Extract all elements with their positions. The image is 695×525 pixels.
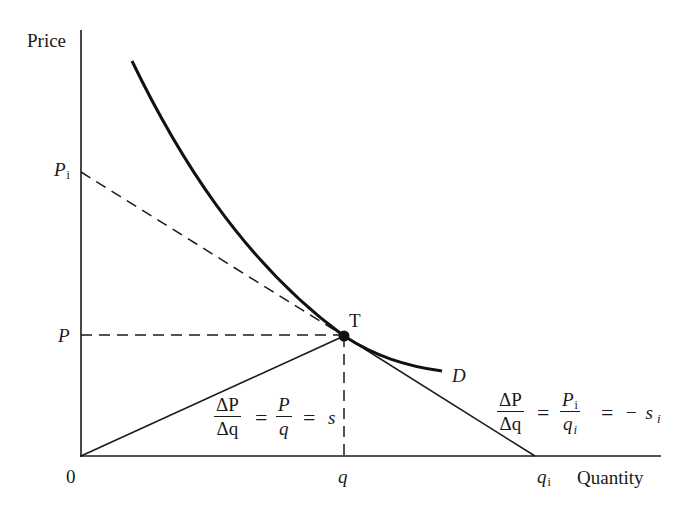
left-formula-eq1: = xyxy=(255,407,267,429)
tangent-dashed-line xyxy=(81,172,344,336)
left-frac1-numerator: ΔP xyxy=(214,395,241,417)
right-frac2-den-sub: i xyxy=(573,422,577,437)
q-i-base: q xyxy=(537,466,547,487)
origin-label: 0 xyxy=(66,467,76,486)
p-i-sub: i xyxy=(67,168,70,182)
intercept-quantity-label: qi xyxy=(537,467,551,486)
right-frac2-den-base: q xyxy=(563,413,573,434)
right-rhs-sub: i xyxy=(657,411,661,426)
ray-from-origin xyxy=(81,336,344,456)
right-frac2-num-sub: i xyxy=(575,398,578,412)
demand-curve-label: D xyxy=(452,366,466,385)
q-i-sub: i xyxy=(548,475,551,489)
right-frac1-numerator: ΔP xyxy=(497,390,524,412)
right-formula-eq2: = xyxy=(601,402,613,424)
left-frac2-numerator: P xyxy=(276,395,292,417)
demand-curve xyxy=(132,61,442,371)
left-formula-frac2: P q xyxy=(276,395,292,438)
right-frac1-denominator: Δq xyxy=(500,412,522,433)
right-formula-eq1: = xyxy=(537,402,549,424)
right-frac2-denominator: qi xyxy=(563,412,577,433)
left-frac2-denominator: q xyxy=(279,417,289,438)
y-axis-label: Price xyxy=(27,31,66,50)
p-i-base: P xyxy=(54,159,66,180)
quantity-label: q xyxy=(338,467,348,486)
demand-diagram-canvas xyxy=(0,0,695,525)
right-rhs-sign: − xyxy=(626,402,637,423)
left-frac1-denominator: Δq xyxy=(217,417,239,438)
right-formula-rhs: − si xyxy=(626,403,661,422)
intercept-price-label: Pi xyxy=(54,160,70,179)
point-t-label: T xyxy=(349,311,361,330)
tangency-point-marker xyxy=(339,331,350,342)
right-formula-frac2: Pi qi xyxy=(560,390,580,433)
right-frac2-num-base: P xyxy=(562,389,574,410)
x-axis-label: Quantity xyxy=(577,468,644,487)
right-frac2-numerator: Pi xyxy=(560,390,580,412)
right-rhs-base: s xyxy=(645,402,652,423)
left-formula-eq2: = xyxy=(303,407,315,429)
left-formula-rhs: s xyxy=(328,408,335,427)
price-label: P xyxy=(58,326,70,345)
left-formula-frac1: ΔP Δq xyxy=(214,395,241,438)
right-formula-frac1: ΔP Δq xyxy=(497,390,524,433)
